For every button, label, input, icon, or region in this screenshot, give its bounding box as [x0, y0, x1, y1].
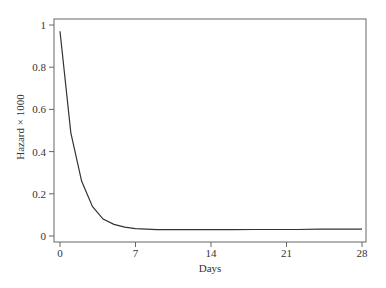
x-tick-label: 28: [357, 247, 369, 259]
x-tick-label: 0: [57, 247, 63, 259]
x-tick-label: 21: [281, 247, 292, 259]
y-tick-label: 0.4: [32, 146, 46, 158]
y-tick-label: 0: [41, 230, 47, 242]
plot-frame: [54, 19, 366, 242]
y-tick-label: 0.8: [32, 61, 46, 73]
x-tick-label: 7: [133, 247, 139, 259]
y-tick-label: 0.2: [32, 188, 46, 200]
y-axis-label: Hazard × 1000: [14, 94, 26, 160]
x-axis-label: Days: [199, 262, 222, 274]
x-axis: 07142128: [57, 242, 368, 259]
y-tick-label: 1: [41, 19, 47, 31]
y-tick-label: 0.6: [32, 103, 46, 115]
x-tick-label: 14: [206, 247, 218, 259]
hazard-line: [60, 31, 362, 229]
hazard-chart: 00.20.40.60.81 07142128 Days Hazard × 10…: [0, 0, 386, 288]
y-axis: 00.20.40.60.81: [32, 19, 54, 242]
